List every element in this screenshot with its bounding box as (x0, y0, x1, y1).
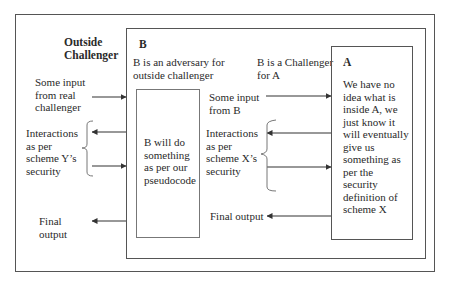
a-box-description: We have no idea what is inside A, we jus… (343, 78, 409, 216)
b-challenger-note: B is a Challenger for A (257, 56, 333, 81)
outer-interactions-label: Interactions as per scheme Y’s security (26, 127, 78, 177)
b-pseudocode-text: B will do something as per our pseudocod… (144, 136, 196, 186)
a-box-title: A (343, 56, 351, 69)
outer-final-output-label: Final output (39, 215, 67, 240)
b-input-label: Some input from B (209, 91, 259, 116)
b-box-description: B is an adversary for outside challenger (133, 56, 225, 81)
b-box-title: B (139, 38, 147, 51)
b-interactions-label: Interactions as per scheme X’s security (206, 127, 258, 177)
b-final-output-label: Final output (210, 210, 263, 223)
outer-input-label: Some input from real challenger (35, 76, 85, 114)
outside-challenger-title: Outside Challenger (64, 36, 118, 61)
